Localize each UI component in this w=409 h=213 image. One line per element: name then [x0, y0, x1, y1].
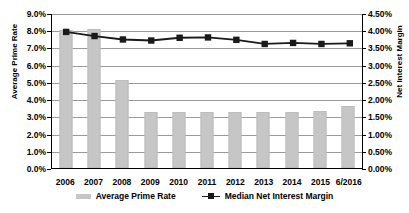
y-axis-right-tick-label: 3.50% — [368, 44, 392, 53]
legend-label-median-net-interest-margin: Median Net Interest Margin — [225, 191, 334, 201]
chart-container: Average Prime Rate Net Interest Margin 9… — [0, 0, 409, 213]
bar-slot — [306, 14, 334, 168]
y-axis-left-tick-label: 8.0% — [27, 27, 46, 36]
x-axis-label-slot: 2007 — [79, 171, 107, 189]
bar-slot — [278, 14, 306, 168]
x-axis-label: 2010 — [169, 177, 188, 187]
y-axis-right-tick-label: 4.50% — [368, 10, 392, 19]
x-axis-label: 6/2016 — [336, 177, 362, 187]
x-axis-label-slot: 2008 — [108, 171, 136, 189]
plot-area — [51, 14, 363, 169]
bar — [229, 112, 242, 168]
bar — [201, 112, 214, 168]
y-axis-left-tick-label: 9.0% — [27, 10, 46, 19]
y-axis-left-ticks: 9.0%8.0%7.0%6.0%5.0%4.0%3.0%2.0%1.0%0.0% — [16, 14, 50, 169]
bar — [144, 112, 157, 168]
x-axis-label-slot: 2012 — [221, 171, 249, 189]
y-axis-right-tick-label: 3.00% — [368, 62, 392, 71]
bar — [313, 111, 326, 168]
y-axis-right-tick-label: 2.50% — [368, 79, 392, 88]
bar-slot — [334, 14, 362, 168]
x-axis-label: 2011 — [198, 177, 216, 187]
x-axis-label-slot: 2013 — [250, 171, 278, 189]
x-axis-label-slot: 2011 — [193, 171, 221, 189]
x-axis-label-slot: 6/2016 — [335, 171, 363, 189]
bar — [88, 29, 101, 168]
x-axis-label-slot: 2006 — [51, 171, 79, 189]
bar-slot — [108, 14, 136, 168]
bar — [116, 80, 129, 168]
bar — [60, 30, 73, 168]
bar — [172, 112, 185, 168]
y-axis-left-tick-label: 4.0% — [27, 96, 46, 105]
bar-slot — [165, 14, 193, 168]
y-axis-left-tick-mark — [47, 169, 51, 170]
y-axis-right-tick-mark — [362, 169, 366, 170]
legend-label-average-prime-rate: Average Prime Rate — [96, 191, 176, 201]
x-axis-label-slot: 2015 — [306, 171, 334, 189]
x-axis-label: 2006 — [56, 177, 75, 187]
y-axis-left-tick-label: 7.0% — [27, 44, 46, 53]
bar — [285, 112, 298, 168]
x-axis-label: 2008 — [112, 177, 131, 187]
bar — [341, 106, 354, 168]
y-axis-right-tick-label: 4.00% — [368, 27, 392, 36]
bar-slot — [249, 14, 277, 168]
x-axis-label: 2009 — [141, 177, 160, 187]
bar-series-average-prime-rate — [52, 14, 362, 168]
x-axis-label: 2007 — [84, 177, 103, 187]
y-axis-left-tick-label: 3.0% — [27, 113, 46, 122]
bar-slot — [80, 14, 108, 168]
bar-slot — [193, 14, 221, 168]
x-axis-labels: 2006200720082009201020112012201320142015… — [51, 171, 363, 189]
y-axis-right-tick-label: 0.00% — [368, 165, 392, 174]
bar-slot — [52, 14, 80, 168]
y-axis-right-tick-label: 1.50% — [368, 113, 392, 122]
line-swatch-icon — [202, 192, 220, 201]
y-axis-left-tick-label: 6.0% — [27, 62, 46, 71]
y-axis-right-ticks: 4.50%4.00%3.50%3.00%2.50%2.00%1.50%1.00%… — [363, 14, 397, 169]
x-axis-label: 2012 — [226, 177, 245, 187]
bar — [257, 112, 270, 168]
y-axis-right-tick-label: 0.50% — [368, 148, 392, 157]
y-axis-left-tick-label: 0.0% — [27, 165, 46, 174]
x-axis-label: 2014 — [283, 177, 302, 187]
legend-item-average-prime-rate: Average Prime Rate — [76, 191, 176, 201]
x-axis-label-slot: 2010 — [164, 171, 192, 189]
legend-item-median-net-interest-margin: Median Net Interest Margin — [202, 191, 334, 201]
y-axis-left-tick-label: 2.0% — [27, 131, 46, 140]
bar-swatch-icon — [76, 194, 91, 199]
x-axis-label-slot: 2009 — [136, 171, 164, 189]
x-axis-label-slot: 2014 — [278, 171, 306, 189]
x-axis-label: 2015 — [311, 177, 330, 187]
chart-legend: Average Prime Rate Median Net Interest M… — [0, 191, 409, 201]
y-axis-left-tick-label: 5.0% — [27, 79, 46, 88]
bar-slot — [137, 14, 165, 168]
bar-slot — [221, 14, 249, 168]
y-axis-right-tick-label: 1.00% — [368, 131, 392, 140]
y-axis-right-tick-label: 2.00% — [368, 96, 392, 105]
y-axis-left-tick-label: 1.0% — [27, 148, 46, 157]
x-axis-label: 2013 — [254, 177, 273, 187]
